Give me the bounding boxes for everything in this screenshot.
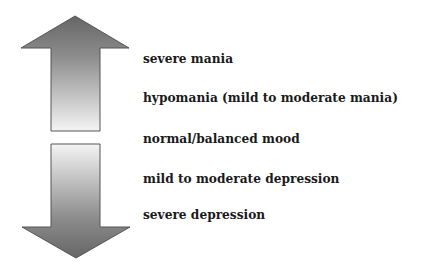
mood-spectrum-diagram: severe mania hypomania (mild to moderate… (0, 0, 444, 271)
label-severe-depression: severe depression (143, 209, 265, 221)
label-severe-mania: severe mania (143, 53, 233, 65)
label-mild-moderate-depression: mild to moderate depression (143, 173, 339, 185)
down-arrow-icon (22, 144, 130, 258)
label-hypomania: hypomania (mild to moderate mania) (143, 92, 398, 104)
up-arrow-icon (21, 16, 129, 131)
label-normal-mood: normal/balanced mood (143, 133, 300, 145)
